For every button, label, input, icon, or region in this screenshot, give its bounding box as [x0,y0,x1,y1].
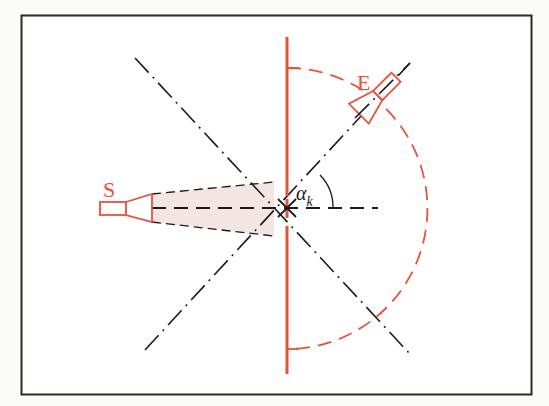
detector-label: E [357,70,370,95]
source-label: S [103,177,115,202]
diagram-frame [22,16,532,395]
diagram-canvas: αk S E [0,0,549,406]
